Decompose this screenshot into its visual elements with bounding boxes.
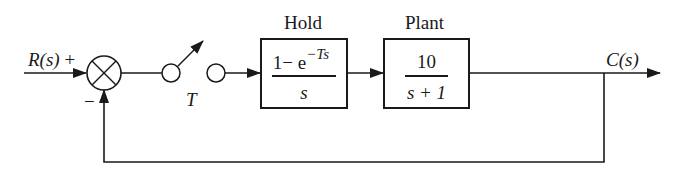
output-label: C(s)	[606, 50, 639, 69]
plant-numerator: 10	[385, 52, 468, 71]
plant-fraction-bar	[405, 75, 448, 77]
plant-title: Plant	[405, 13, 444, 32]
input-label: R(s) +	[28, 50, 75, 69]
hold-fraction-bar	[272, 75, 336, 77]
hold-block: 1− e−Ts s	[260, 38, 348, 109]
hold-title: Hold	[284, 13, 322, 32]
input-signal-name: R(s)	[28, 49, 60, 70]
sampler-switch-icon	[162, 41, 225, 82]
hold-numerator-exponent: −Ts	[306, 46, 329, 62]
sampling-period-label: T	[186, 90, 197, 109]
feedback-path	[104, 73, 604, 162]
input-sign: +	[64, 49, 75, 70]
plant-block: 10 s + 1	[383, 38, 470, 109]
hold-denominator: s	[262, 83, 346, 102]
hold-numerator-base: 1− e	[273, 52, 306, 73]
feedback-sign: −	[84, 92, 95, 111]
summing-junction-icon	[87, 56, 121, 90]
plant-denominator: s + 1	[385, 83, 468, 102]
hold-numerator: 1− e−Ts	[256, 50, 346, 72]
